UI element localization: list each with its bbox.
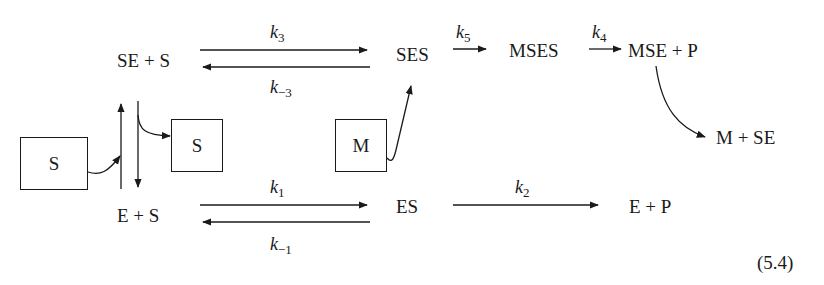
- rate-k4: k4: [592, 23, 607, 44]
- rate-k-minus-1: k−1: [270, 235, 292, 256]
- box-modifier: M: [335, 119, 387, 172]
- species-es: ES: [396, 197, 418, 216]
- rate-k5: k5: [456, 23, 471, 44]
- species-mses: MSES: [509, 41, 559, 60]
- rate-k-minus-3: k−3: [270, 78, 292, 99]
- rate-k2: k2: [515, 178, 530, 199]
- arrow-m-to-ses: [387, 86, 411, 160]
- species-e-plus-s: E + S: [117, 206, 159, 225]
- species-mse-plus-p: MSE + P: [628, 41, 698, 60]
- arrow-s-out: [138, 115, 170, 136]
- box-substrate-out-label: S: [192, 135, 203, 157]
- species-ses: SES: [396, 45, 429, 64]
- box-substrate-in: S: [20, 137, 88, 190]
- box-substrate-in-label: S: [49, 153, 60, 175]
- species-m-plus-se: M + SE: [716, 128, 775, 147]
- box-substrate-out: S: [171, 119, 223, 172]
- species-se-plus-s: SE + S: [117, 51, 170, 70]
- rate-k3: k3: [270, 23, 285, 44]
- rate-k1: k1: [270, 178, 285, 199]
- arrow-mse-to-m-se: [656, 66, 705, 137]
- reaction-arrows: [0, 0, 824, 285]
- arrow-s-in: [88, 156, 120, 173]
- box-modifier-label: M: [353, 135, 370, 157]
- equation-number: (5.4): [757, 253, 793, 272]
- species-e-plus-p: E + P: [629, 197, 671, 216]
